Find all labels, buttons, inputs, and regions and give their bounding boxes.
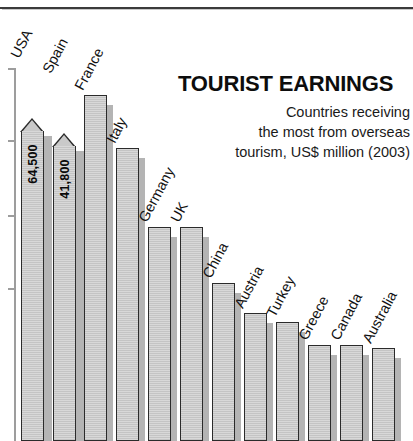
page-title: TOURIST EARNINGS [178, 72, 410, 95]
bar [276, 322, 299, 441]
bar-group: Austria [244, 0, 274, 441]
bar [180, 227, 203, 441]
chart-subtitle: Countries receiving the most from overse… [178, 102, 410, 162]
bar [212, 283, 235, 441]
bar [116, 148, 139, 441]
chart-title-block: TOURIST EARNINGS Countries receiving the… [178, 72, 410, 162]
bar [340, 345, 363, 441]
bar-group: Canada [340, 0, 370, 441]
bar-group: Turkey [276, 0, 306, 441]
bar [148, 227, 171, 441]
bar-value-label: 64,500 [26, 144, 40, 183]
bar [372, 348, 395, 441]
subtitle-line-3: tourism, US$ million (2003) [178, 142, 410, 162]
bar-group: 41,800Spain [52, 0, 82, 441]
bar-value-label: 41,800 [58, 159, 72, 198]
bar-category-label: USA [8, 27, 35, 60]
value-callout-flag: 64,500 [20, 118, 45, 441]
bars-plot-area: 64,500USA41,800SpainFranceItalyGermanyUK… [0, 0, 413, 441]
bar [244, 313, 267, 441]
callout-stem: 41,800 [53, 146, 76, 441]
tourist-earnings-chart: 64,500USA41,800SpainFranceItalyGermanyUK… [0, 0, 413, 441]
subtitle-line-1: Countries receiving [178, 102, 410, 122]
bar-group: UK [180, 0, 210, 441]
callout-stem: 64,500 [21, 131, 44, 441]
bar-group: China [212, 0, 242, 441]
bar [84, 95, 107, 441]
bar-shadow [44, 136, 52, 441]
bar [308, 345, 331, 441]
value-callout-flag: 41,800 [52, 133, 77, 441]
subtitle-line-2: the most from overseas [178, 122, 410, 142]
bar-group: Australia [372, 0, 402, 441]
bar-shadow [76, 151, 84, 441]
bar-group: France [84, 0, 114, 441]
bar-group: Greece [308, 0, 338, 441]
